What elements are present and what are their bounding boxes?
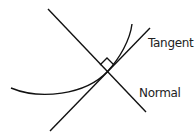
- tangent-line: [50, 28, 150, 131]
- tangent-normal-diagram: [0, 0, 196, 139]
- tangent-label: Tangent: [148, 36, 194, 50]
- normal-label: Normal: [139, 86, 181, 100]
- right-angle-marker: [100, 58, 114, 65]
